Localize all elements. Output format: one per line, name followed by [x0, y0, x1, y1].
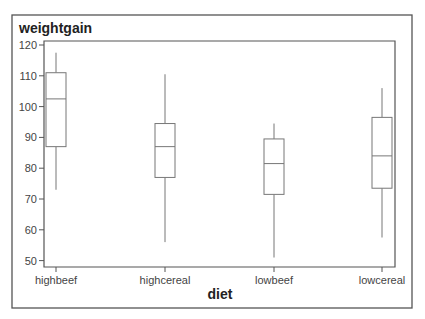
y-tick-label: 60 — [25, 224, 37, 236]
y-tick-label: 120 — [19, 39, 37, 51]
y-tick-label: 100 — [19, 101, 37, 113]
box-plot-chart: weightgain 5060708090100110120 highbeefh… — [0, 0, 425, 319]
chart-outer-frame — [12, 15, 412, 308]
y-tick-label: 70 — [25, 193, 37, 205]
y-tick-label: 80 — [25, 162, 37, 174]
plot-area — [44, 41, 395, 267]
iqr-box — [46, 73, 66, 147]
x-tick-label-lowbeef: lowbeef — [255, 274, 294, 286]
iqr-box — [155, 124, 175, 178]
chart-title: weightgain — [18, 20, 92, 36]
x-tick-label-lowcereal: lowcereal — [359, 274, 405, 286]
x-tick-label-highcereal: highcereal — [140, 274, 191, 286]
y-tick-label: 50 — [25, 255, 37, 267]
iqr-box — [264, 139, 284, 194]
box-highbeef — [46, 53, 66, 190]
iqr-box — [372, 117, 392, 188]
box-highcereal — [155, 74, 175, 242]
x-tick-label-highbeef: highbeef — [35, 274, 78, 286]
x-axis: highbeefhighcereallowbeeflowcereal — [35, 267, 405, 286]
y-tick-label: 90 — [25, 131, 37, 143]
box-series — [46, 53, 392, 258]
box-lowcereal — [372, 88, 392, 237]
x-axis-label: diet — [208, 286, 233, 302]
y-tick-label: 110 — [19, 70, 37, 82]
box-lowbeef — [264, 124, 284, 258]
plot-frame — [44, 41, 395, 267]
y-axis: 5060708090100110120 — [19, 39, 44, 267]
